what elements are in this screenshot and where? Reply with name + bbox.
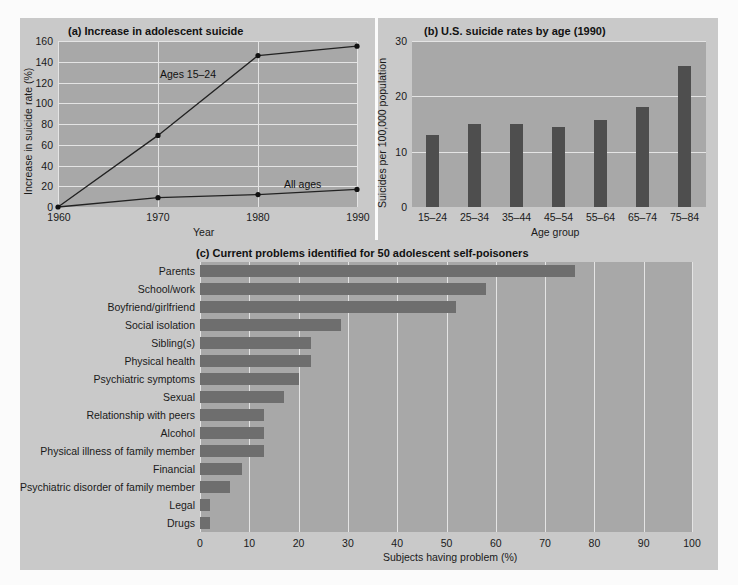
panel-c-gridline (545, 262, 546, 532)
hbar-psychiatric-disorder-of-family-member (200, 481, 230, 493)
hbar-boyfriend-girlfriend (200, 301, 456, 313)
figure-canvas: (a) Increase in adolescent suicide 160 1… (0, 0, 738, 585)
panel-b-xtick: 65–74 (621, 211, 664, 223)
panel-c-gridline (594, 262, 595, 532)
bar-15-24 (426, 135, 439, 207)
panel-c-xtick: 40 (382, 537, 412, 549)
panel-c-xtick: 70 (530, 537, 560, 549)
panel-c-category-label: Drugs (10, 517, 195, 529)
panel-b-xtick: 35–44 (495, 211, 538, 223)
bar-55-64 (594, 120, 607, 207)
panel-b-xtick: 75–84 (663, 211, 706, 223)
series-label-ages-15-24: Ages 15–24 (160, 68, 216, 80)
panel-c-category-label: Psychiatric disorder of family member (10, 481, 195, 493)
data-point (155, 195, 160, 200)
bar-45-54 (552, 127, 565, 207)
panel-b-xtick: 25–34 (453, 211, 496, 223)
panel-c-category-label: Sibling(s) (10, 337, 195, 349)
panel-c-category-label: Psychiatric symptoms (10, 373, 195, 385)
panel-c-title: (c) Current problems identified for 50 a… (196, 247, 529, 259)
panel-c-category-label: Physical illness of family member (10, 445, 195, 457)
hbar-parents (200, 265, 575, 277)
data-point (354, 187, 359, 192)
bar-25-34 (468, 124, 481, 207)
hbar-financial (200, 463, 242, 475)
panel-c-category-label: Alcohol (10, 427, 195, 439)
panel-b-gridline (412, 41, 706, 42)
panel-b-gridline (412, 96, 706, 97)
panel-b-title: (b) U.S. suicide rates by age (1990) (424, 25, 606, 37)
panel-c-xtick: 0 (185, 537, 215, 549)
hbar-physical-health (200, 355, 311, 367)
panel-b-xtick: 45–54 (537, 211, 580, 223)
hbar-psychiatric-symptoms (200, 373, 299, 385)
bar-75-84 (678, 66, 691, 207)
hbar-relationship-with-peers (200, 409, 264, 421)
data-point (255, 192, 260, 197)
panel-c-category-label: Boyfriend/girlfriend (10, 301, 195, 313)
panel-c-xtick: 30 (333, 537, 363, 549)
data-point (255, 53, 260, 58)
bar-65-74 (636, 107, 649, 207)
panel-c-gridline (496, 262, 497, 532)
bar-35-44 (510, 124, 523, 207)
panel-b-xtick: 15–24 (411, 211, 454, 223)
panel-b-xtick: 55–64 (579, 211, 622, 223)
hbar-legal (200, 499, 210, 511)
data-point (354, 44, 359, 49)
data-point (55, 204, 60, 209)
panel-c-gridline (692, 262, 693, 532)
panel-c-xaxis-title: Subjects having problem (%) (383, 551, 517, 563)
panel-c-category-label: Relationship with peers (10, 409, 195, 421)
panel-c-xtick: 10 (234, 537, 264, 549)
panel-c-xtick: 100 (677, 537, 707, 549)
hbar-sexual (200, 391, 284, 403)
panel-b-yaxis-title: Suicides per 100,000 population (376, 58, 388, 208)
panel-c-xtick: 20 (284, 537, 314, 549)
hbar-physical-illness-of-family-member (200, 445, 264, 457)
panel-c-xtick: 90 (629, 537, 659, 549)
panel-c-category-label: Legal (10, 499, 195, 511)
panel-c-category-label: Parents (10, 265, 195, 277)
panel-c-xtick: 60 (481, 537, 511, 549)
data-point (155, 133, 160, 138)
series-all-ages-line (58, 189, 357, 207)
panel-c-xtick: 50 (432, 537, 462, 549)
panel-c-category-label: Social isolation (10, 319, 195, 331)
panel-b-ytick: 30 (382, 35, 407, 47)
panel-c-category-label: Physical health (10, 355, 195, 367)
series-label-all-ages: All ages (284, 178, 321, 190)
hbar-school-work (200, 283, 486, 295)
panel-b-xaxis-title: Age group (531, 226, 579, 238)
panel-c-category-label: School/work (10, 283, 195, 295)
hbar-drugs (200, 517, 210, 529)
hbar-social-isolation (200, 319, 341, 331)
panel-c-category-label: Financial (10, 463, 195, 475)
panel-c-category-label: Sexual (10, 391, 195, 403)
hbar-alcohol (200, 427, 264, 439)
panel-c-gridline (644, 262, 645, 532)
panel-c-xtick: 80 (579, 537, 609, 549)
hbar-siblings (200, 337, 311, 349)
